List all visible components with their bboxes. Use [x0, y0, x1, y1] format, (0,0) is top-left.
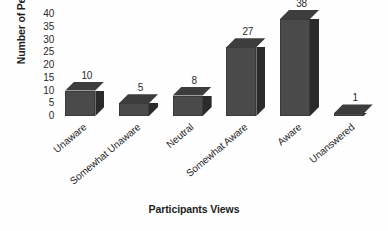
bar-top-face: [65, 82, 104, 91]
bar-front-face: [65, 91, 95, 117]
bar[interactable]: [65, 82, 104, 117]
bar-group: [280, 14, 319, 116]
y-axis-tick-label: 10: [30, 86, 54, 96]
bar-top-face: [119, 94, 158, 103]
y-axis-tick-label: 15: [30, 73, 54, 83]
y-axis-tick-label: 5: [30, 98, 54, 108]
bar[interactable]: [119, 94, 158, 116]
bar-value-label: 5: [121, 82, 161, 93]
bar-front-face: [119, 103, 149, 116]
bar-group: [173, 14, 212, 116]
x-axis-category-labels: UnawareSomewhat UnawareNeutralSomewhat A…: [0, 116, 388, 196]
bar[interactable]: [226, 38, 265, 116]
bar-front-face: [173, 96, 203, 116]
bar-top-face: [334, 104, 373, 113]
y-axis-tick-label: 35: [30, 22, 54, 32]
bar-group: [65, 14, 104, 116]
bar-top-face: [173, 87, 212, 96]
bar-front-face: [226, 47, 256, 116]
bar-value-label: 27: [228, 26, 268, 37]
bar-front-face: [280, 19, 310, 116]
bar-value-label: 1: [335, 92, 375, 103]
y-axis-title: Number of Persons: [15, 0, 29, 69]
bar-chart: Number of Persons 0510152025303540 10582…: [0, 0, 388, 231]
bar-value-label: 38: [282, 0, 322, 9]
bar-side-face: [95, 91, 104, 117]
y-axis-tick-label: 25: [30, 47, 54, 57]
x-axis-title: Participants Views: [0, 203, 388, 215]
bar-side-face: [203, 96, 212, 116]
bar-top-face: [280, 10, 319, 19]
bar-value-label: 10: [67, 70, 107, 81]
bar-top-face: [226, 38, 265, 47]
plot-area: 105827381: [58, 14, 380, 116]
y-axis-tick-label: 20: [30, 60, 54, 70]
bar-side-face: [256, 47, 265, 116]
y-axis-tick-label: 30: [30, 35, 54, 45]
bar-side-face: [149, 103, 158, 116]
bar-value-label: 8: [174, 75, 214, 86]
bar-group: [119, 14, 158, 116]
y-axis-tick-labels: 0510152025303540: [30, 14, 54, 116]
bar-side-face: [310, 19, 319, 116]
y-axis-tick-label: 40: [30, 9, 54, 19]
bar[interactable]: [280, 10, 319, 116]
bar[interactable]: [334, 104, 373, 116]
bar[interactable]: [173, 87, 212, 116]
